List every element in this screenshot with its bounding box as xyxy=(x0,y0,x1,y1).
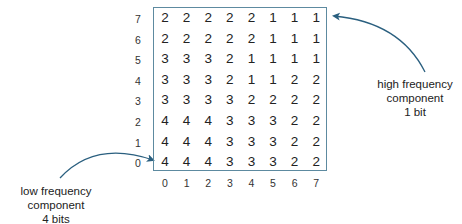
matrix-cell: 2 xyxy=(177,29,197,49)
low-frequency-annotation: low frequency component 4 bits xyxy=(8,184,104,224)
matrix-cell: 3 xyxy=(241,132,261,152)
matrix-cell: 3 xyxy=(220,111,240,131)
matrix-cell: 2 xyxy=(285,152,305,172)
matrix-cell: 3 xyxy=(155,90,175,110)
matrix-cell: 3 xyxy=(263,152,283,172)
column-label: 5 xyxy=(266,174,280,192)
high-frequency-arrow-icon xyxy=(334,16,425,72)
matrix-cell: 2 xyxy=(241,8,261,28)
column-label: 0 xyxy=(158,174,172,192)
matrix-cell: 3 xyxy=(241,152,261,172)
matrix-cell: 2 xyxy=(285,132,305,152)
matrix-cell: 2 xyxy=(155,29,175,49)
matrix-cell: 1 xyxy=(285,49,305,69)
matrix-cell: 4 xyxy=(177,132,197,152)
matrix-cell: 1 xyxy=(285,29,305,49)
matrix-cell: 3 xyxy=(241,111,261,131)
column-label: 1 xyxy=(180,174,194,192)
matrix-cell: 2 xyxy=(285,90,305,110)
matrix-cell: 2 xyxy=(306,70,326,90)
high-annotation-line-1: high frequency xyxy=(368,77,462,91)
row-label: 1 xyxy=(131,134,145,152)
high-frequency-annotation: high frequency component 1 bit xyxy=(368,77,462,119)
matrix-cell: 2 xyxy=(177,8,197,28)
row-label: 0 xyxy=(131,154,145,172)
matrix-cell: 2 xyxy=(263,90,283,110)
high-annotation-line-2: component xyxy=(368,91,462,105)
low-annotation-line-2: component xyxy=(8,198,104,212)
matrix-cell: 3 xyxy=(198,70,218,90)
matrix-cell: 2 xyxy=(306,132,326,152)
matrix-cell: 1 xyxy=(263,70,283,90)
row-label: 5 xyxy=(131,51,145,69)
row-label: 4 xyxy=(131,72,145,90)
matrix-cell: 3 xyxy=(177,70,197,90)
matrix-cell: 3 xyxy=(220,132,240,152)
matrix-cell: 4 xyxy=(198,111,218,131)
matrix-cell: 4 xyxy=(155,152,175,172)
high-annotation-line-3: 1 bit xyxy=(368,105,462,119)
row-label: 6 xyxy=(131,31,145,49)
matrix-cell: 2 xyxy=(285,111,305,131)
matrix-cell: 1 xyxy=(241,70,261,90)
matrix-cell: 2 xyxy=(155,8,175,28)
row-label: 7 xyxy=(131,10,145,28)
matrix-cell: 4 xyxy=(198,132,218,152)
column-label: 2 xyxy=(201,174,215,192)
matrix-cell: 3 xyxy=(177,49,197,69)
column-label: 3 xyxy=(223,174,237,192)
matrix-cell: 3 xyxy=(263,111,283,131)
column-label: 6 xyxy=(288,174,302,192)
column-label: 7 xyxy=(309,174,323,192)
matrix-cell: 4 xyxy=(155,111,175,131)
matrix-cell: 1 xyxy=(285,8,305,28)
matrix-cell: 2 xyxy=(220,70,240,90)
matrix-cell: 3 xyxy=(220,90,240,110)
matrix-cell: 2 xyxy=(285,70,305,90)
row-label: 3 xyxy=(131,92,145,110)
low-annotation-line-1: low frequency xyxy=(8,184,104,198)
matrix-cell: 3 xyxy=(177,90,197,110)
matrix-cell: 2 xyxy=(241,29,261,49)
matrix-cell: 1 xyxy=(241,49,261,69)
matrix-cell: 2 xyxy=(220,49,240,69)
matrix-cell: 4 xyxy=(177,111,197,131)
matrix-cell: 3 xyxy=(155,49,175,69)
low-annotation-line-3: 4 bits xyxy=(8,212,104,224)
matrix-cell: 2 xyxy=(306,152,326,172)
matrix-cell: 4 xyxy=(198,152,218,172)
matrix-cell: 2 xyxy=(198,8,218,28)
matrix-cell: 4 xyxy=(177,152,197,172)
matrix-cell: 1 xyxy=(263,49,283,69)
row-label: 2 xyxy=(131,113,145,131)
matrix-cell: 1 xyxy=(306,49,326,69)
matrix-cell: 4 xyxy=(155,132,175,152)
matrix-cell: 1 xyxy=(306,8,326,28)
matrix-cell: 2 xyxy=(306,111,326,131)
column-label: 4 xyxy=(244,174,258,192)
matrix-cell: 3 xyxy=(263,132,283,152)
matrix-cell: 2 xyxy=(220,8,240,28)
matrix-cell: 3 xyxy=(155,70,175,90)
matrix-cell: 1 xyxy=(306,29,326,49)
matrix-cell: 2 xyxy=(241,90,261,110)
matrix-cell: 1 xyxy=(263,29,283,49)
matrix-cell: 3 xyxy=(198,90,218,110)
matrix-cell: 1 xyxy=(263,8,283,28)
matrix-cell: 2 xyxy=(198,29,218,49)
matrix-cell: 3 xyxy=(198,49,218,69)
matrix-cell: 2 xyxy=(306,90,326,110)
matrix-cell: 3 xyxy=(220,152,240,172)
matrix-cell: 2 xyxy=(220,29,240,49)
